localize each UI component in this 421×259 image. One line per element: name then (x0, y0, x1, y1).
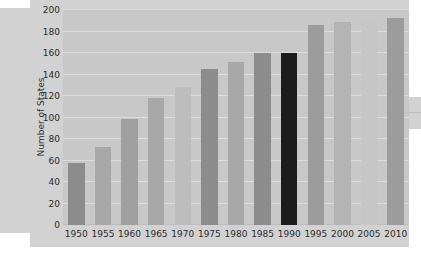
x-tick-label-1975: 1975 (196, 229, 223, 239)
y-axis: Number of States 02040608010012014016018… (30, 4, 63, 232)
x-tick-label-1950: 1950 (63, 229, 90, 239)
bottom-white-band (0, 247, 421, 259)
y-tick-label-100: 100 (43, 113, 60, 123)
y-tick-label-200: 200 (43, 5, 60, 15)
y-tick-label-160: 160 (43, 48, 60, 58)
x-tick-label-1960: 1960 (116, 229, 143, 239)
x-tick-label-1965: 1965 (143, 229, 170, 239)
y-tick-label-180: 180 (43, 27, 60, 37)
x-tick-label-2000: 2000 (329, 229, 356, 239)
bar-2010[interactable] (387, 18, 404, 225)
y-tick-label-60: 60 (49, 156, 60, 166)
x-tick-label-1970: 1970 (169, 229, 196, 239)
x-tick-label-1985: 1985 (249, 229, 276, 239)
figure-corner-notch-top (0, 0, 30, 8)
bar-1980[interactable] (228, 62, 245, 225)
bar-1970[interactable] (175, 87, 192, 225)
x-tick-label-2005: 2005 (356, 229, 383, 239)
y-tick-label-20: 20 (49, 199, 60, 209)
bar-1985[interactable] (254, 53, 271, 225)
right-scroll-thumb[interactable] (409, 97, 421, 129)
bar-1975[interactable] (201, 69, 218, 225)
y-tick-label-140: 140 (43, 70, 60, 80)
bar-2005[interactable] (361, 20, 378, 225)
bar-1990[interactable] (281, 53, 298, 225)
bar-1960[interactable] (121, 119, 138, 225)
x-tick-label-1990: 1990 (276, 229, 303, 239)
y-tick-label-0: 0 (54, 220, 60, 230)
figure-panel: Number of States 02040608010012014016018… (0, 0, 409, 247)
chart-window: Number of States 02040608010012014016018… (0, 0, 421, 259)
bar-1965[interactable] (148, 98, 165, 225)
x-tick-label-2010: 2010 (382, 229, 409, 239)
bar-1995[interactable] (308, 25, 325, 225)
bars-layer (63, 10, 409, 225)
bar-2000[interactable] (334, 22, 351, 225)
y-tick-label-40: 40 (49, 177, 60, 187)
x-tick-label-1995: 1995 (303, 229, 330, 239)
right-scroll-strip[interactable] (409, 0, 421, 259)
bar-1950[interactable] (68, 163, 85, 225)
x-tick-label-1980: 1980 (223, 229, 250, 239)
y-tick-label-120: 120 (43, 91, 60, 101)
x-tick-label-1955: 1955 (90, 229, 117, 239)
right-scroll-thumb-divider (409, 112, 421, 113)
x-axis: 1950195519601965197019751980198519901995… (63, 229, 409, 247)
y-tick-label-80: 80 (49, 134, 60, 144)
bar-1955[interactable] (95, 147, 112, 225)
